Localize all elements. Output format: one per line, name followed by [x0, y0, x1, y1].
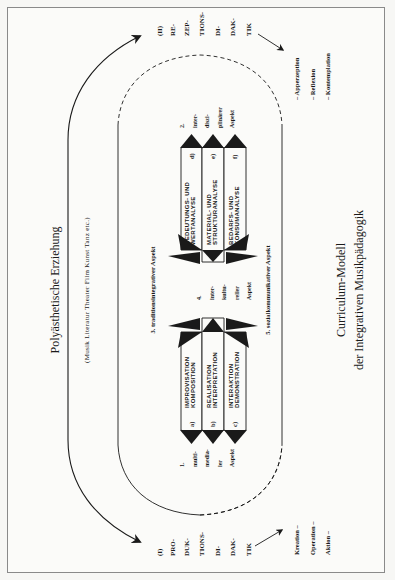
strip-c-letter: c) — [231, 422, 238, 427]
production-didactics-label: (I) PRO- DUK- TIONS- DI- DAK- TIK — [157, 532, 253, 556]
reception-modes-list: – Apperzeption – Reflexion – Kontemplati… — [294, 53, 341, 100]
outer-cycle-arrow — [68, 36, 140, 542]
figure-title: Polyästhetische Erziehung — [49, 0, 61, 580]
strip-b-text: REALISATION INTERPRETATION — [206, 352, 219, 408]
strip-e-text: MATERIAL- UND STRUKTURANALYSE — [206, 179, 219, 245]
reception-didactics-label: (II) RE- ZEP- TIONS- DI- DAK- TIK — [157, 12, 253, 36]
strip-a-letter: a) — [188, 422, 195, 427]
strip-a-text: IMPROVISATION KOMPOSITION — [184, 357, 197, 408]
diagram-page-rotated: Polyästhetische Erziehung (Musik Literat… — [0, 0, 395, 580]
aspect-2-label: 2. inter- diszi- plinärer Aspekt — [179, 107, 242, 128]
strip-d-letter: d) — [188, 153, 195, 159]
aspect-3-label: 3. traditionsintegrativer Aspekt — [150, 0, 157, 580]
production-modes-list: Kreation – Operation – Aktion – — [294, 522, 341, 555]
strip-d-text: BEDEUTUNGS- UND WERTANALYSE — [184, 182, 197, 245]
strip-e-letter: e) — [209, 154, 216, 159]
figure-subtitle: (Musik Literatur Theater Film Kunst Tanz… — [84, 0, 91, 580]
aspect-1-label: 1. multi- media- ler Aspekt — [179, 449, 242, 467]
strip-c-text: INTERAKTION DEMONSTRATION — [228, 352, 241, 408]
aspect-5-label: 5. sozialkommunikativer Aspekt — [265, 0, 272, 580]
strip-b-letter: b) — [209, 421, 216, 427]
strip-f-text: BEDARFS- UND KONSUMANALYSE — [228, 186, 241, 245]
strip-f-letter: f) — [231, 155, 238, 159]
aspect-4-label: 4. inter- kultu- reller Aspekt — [196, 282, 259, 300]
caption-line-2: der Integrativen Musikpädagogik — [353, 0, 365, 580]
